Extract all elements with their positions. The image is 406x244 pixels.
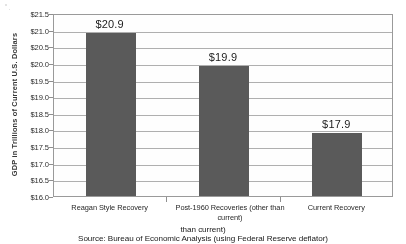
source-text: Source: Bureau of Economic Analysis (usi… [0,234,406,243]
bar [312,133,362,196]
bar-chart: GDP in Trillions of Current U.S. Dollars… [0,0,406,244]
y-axis-tick-label: $16.0 [9,193,49,202]
bar-value-label: $19.9 [183,51,263,63]
scan-speckle [5,4,7,6]
y-axis-tick-label: $17.5 [9,143,49,152]
y-axis-tick-label: $19.5 [9,76,49,85]
y-axis-tick-label: $17.0 [9,159,49,168]
y-axis-tick-mark [48,197,53,198]
x-axis-tick-mark [166,197,167,202]
bar [199,66,249,196]
y-axis-tick-label: $20.0 [9,59,49,68]
y-axis-tick-label: $18.5 [9,109,49,118]
source-line-continuation: than current) [0,225,406,234]
x-axis-tick-mark [280,197,281,202]
y-axis-tick-label: $19.0 [9,93,49,102]
x-axis-category-label: Post-1960 Recoveries (other than current… [166,203,293,222]
y-axis-tick-label: $18.0 [9,126,49,135]
bar-value-label: $20.9 [70,18,150,30]
y-axis-tick-label: $16.5 [9,176,49,185]
bar-value-label: $17.9 [296,118,376,130]
source-note: than current) Source: Bureau of Economic… [0,225,406,243]
y-axis-tick-label: $21.5 [9,10,49,19]
x-axis-category-label: Current Recovery [280,203,393,213]
bar [86,33,136,196]
y-axis-tick-label: $21.0 [9,26,49,35]
y-axis-tick-label: $20.5 [9,43,49,52]
plot-area [53,14,393,197]
x-axis-category-label: Reagan Style Recovery [53,203,166,213]
